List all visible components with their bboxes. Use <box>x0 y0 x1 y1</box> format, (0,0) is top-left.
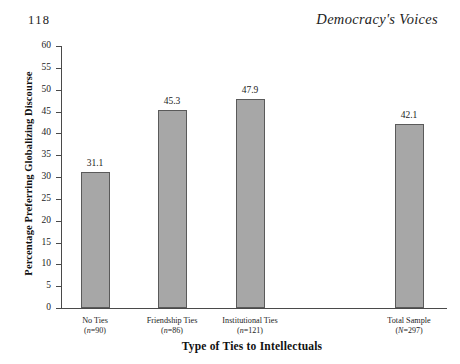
y-axis-tick-mark <box>56 308 62 309</box>
bar-value-label: 45.3 <box>147 97 197 107</box>
y-axis-tick-mark <box>56 221 62 222</box>
y-axis-tick-label: 45 <box>11 107 51 117</box>
bar <box>81 172 110 308</box>
category-name: No Ties <box>82 316 108 325</box>
x-axis-category-label: Friendship Ties(n=86) <box>127 315 217 337</box>
y-axis-tick-label: 0 <box>11 303 51 313</box>
y-axis-tick-label: 30 <box>11 172 51 182</box>
y-axis-tick-mark <box>56 133 62 134</box>
y-axis-tick-label: 10 <box>11 259 51 269</box>
y-axis-tick-mark <box>56 90 62 91</box>
bar <box>395 124 424 308</box>
bar <box>158 110 187 308</box>
y-axis-tick-mark <box>56 46 62 47</box>
category-count: (n=86) <box>127 326 217 337</box>
category-count: (n=121) <box>205 326 295 337</box>
running-head: Democracy's Voices <box>316 11 438 28</box>
y-axis-tick-mark <box>56 177 62 178</box>
category-count: (N=297) <box>364 326 454 337</box>
category-name: Total Sample <box>387 316 430 325</box>
y-axis-tick-label: 50 <box>11 85 51 95</box>
page-header: 118 Democracy's Voices <box>0 13 460 33</box>
y-axis-tick-mark <box>56 243 62 244</box>
y-axis-tick-mark <box>56 286 62 287</box>
x-axis-category-label: Institutional Ties(n=121) <box>205 315 295 337</box>
bar-value-label: 47.9 <box>225 86 275 96</box>
category-name: Institutional Ties <box>222 316 277 325</box>
y-axis-tick-label: 20 <box>11 216 51 226</box>
y-axis-tick-mark <box>56 112 62 113</box>
y-axis-tick-mark <box>56 68 62 69</box>
y-axis-tick-label: 40 <box>11 128 51 138</box>
y-axis-tick-mark <box>56 199 62 200</box>
y-axis-tick-label: 5 <box>11 281 51 291</box>
bar-value-label: 42.1 <box>384 111 434 121</box>
x-axis-line <box>61 308 447 309</box>
bar <box>236 99 265 308</box>
y-axis-tick-mark <box>56 264 62 265</box>
x-axis-category-label: Total Sample(N=297) <box>364 315 454 337</box>
bar-chart: Percentage Preferring Globalizing Discou… <box>0 40 460 364</box>
y-axis-tick-label: 60 <box>11 41 51 51</box>
page-number: 118 <box>28 13 51 28</box>
y-axis-tick-mark <box>56 155 62 156</box>
bar-value-label: 31.1 <box>70 159 120 169</box>
y-axis-tick-label: 55 <box>11 63 51 73</box>
category-name: Friendship Ties <box>147 316 198 325</box>
x-axis-title: Type of Ties to Intellectuals <box>62 340 442 352</box>
y-axis-tick-label: 25 <box>11 194 51 204</box>
y-axis-tick-label: 35 <box>11 150 51 160</box>
y-axis-tick-label: 15 <box>11 238 51 248</box>
